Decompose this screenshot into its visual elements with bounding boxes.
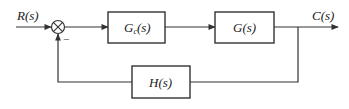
plant-block: G(s) — [215, 12, 274, 43]
controller-block: Gc(s) — [108, 12, 165, 43]
feedback-sign: − — [63, 33, 69, 45]
svg-text:H(s): H(s) — [148, 75, 172, 90]
svg-text:Gc(s): Gc(s) — [124, 20, 151, 36]
summing-junction — [52, 21, 65, 34]
output-label: C(s) — [312, 8, 334, 23]
feedback-block: H(s) — [132, 66, 190, 98]
svg-text:G(s): G(s) — [233, 20, 256, 35]
input-label: R(s) — [16, 8, 39, 23]
block-diagram: R(s) − Gc(s) G(s) C(s) H(s) — [0, 0, 349, 109]
